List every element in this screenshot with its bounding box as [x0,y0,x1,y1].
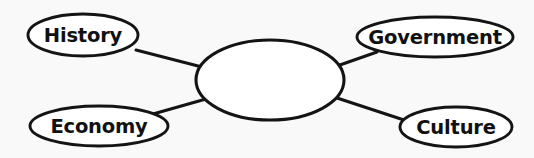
node-history-label: History [44,24,123,47]
center-node[interactable] [196,40,344,120]
concept-map-diagram: History Government Economy Culture [0,0,534,158]
node-culture[interactable]: Culture [400,107,512,147]
concept-map-canvas: History Government Economy Culture [0,0,534,158]
node-government[interactable]: Government [357,17,513,57]
node-history[interactable]: History [28,14,138,56]
node-culture-label: Culture [416,116,496,139]
node-economy-label: Economy [50,115,148,138]
center-node-ellipse[interactable] [196,40,344,120]
node-economy[interactable]: Economy [30,106,168,146]
node-government-label: Government [368,26,502,49]
